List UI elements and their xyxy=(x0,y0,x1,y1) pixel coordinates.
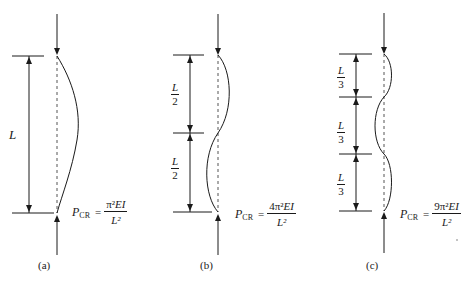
segment-label-b-1: L 2 xyxy=(171,82,179,107)
caption-a: (a) xyxy=(38,259,50,271)
formula-eq: = xyxy=(95,206,101,218)
caption-b: (b) xyxy=(200,259,213,271)
buckled-shape xyxy=(57,56,78,213)
panel-b xyxy=(173,14,229,255)
caption-c: (c) xyxy=(366,259,378,271)
segment-label-c-2: L 3 xyxy=(337,120,345,145)
buckling-diagram xyxy=(0,0,468,286)
length-label-a: L xyxy=(9,127,16,143)
formula-c: P CR = 9π²EI L² xyxy=(400,200,461,228)
segment-label-c-1: L 3 xyxy=(337,65,345,90)
formula-sub: CR xyxy=(79,211,90,220)
formula-pi: π² xyxy=(106,198,115,210)
formula-var: EI xyxy=(115,198,125,210)
formula-b: P CR = 4π²EI L² xyxy=(235,200,296,228)
top-arrowhead-icon xyxy=(54,48,60,55)
segment-label-b-2: L 2 xyxy=(171,156,179,181)
segment-label-c-3: L 3 xyxy=(337,172,345,197)
bottom-arrowhead-icon xyxy=(54,215,60,222)
formula-den: L² xyxy=(111,212,120,226)
formula-lhs: P xyxy=(72,205,79,220)
formula-a: P CR = π²EI L² xyxy=(72,198,127,226)
panel-a xyxy=(12,14,78,255)
